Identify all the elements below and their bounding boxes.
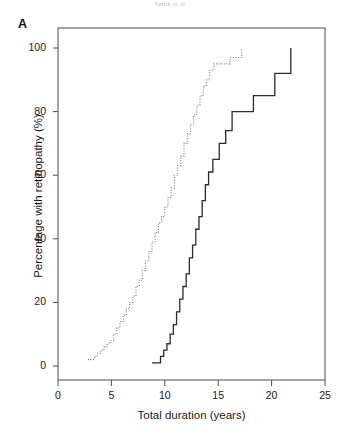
y-tick-label: 40 (20, 232, 46, 244)
y-tick-label: 100 (20, 41, 46, 53)
y-tick-label: 0 (20, 359, 46, 371)
x-tick-label: 5 (98, 389, 124, 401)
x-tick-label: 25 (312, 389, 338, 401)
x-tick-label: 15 (205, 389, 231, 401)
axis-frame (58, 28, 325, 380)
dotted-cumulative-curve (88, 48, 242, 360)
x-axis-label: Total duration (years) (58, 409, 325, 421)
x-tick-label: 20 (259, 389, 285, 401)
retinopathy-duration-chart: Percentage with retinopathy (%) Total du… (0, 0, 342, 436)
solid-cumulative-curve (152, 48, 291, 363)
x-tick-label: 10 (152, 389, 178, 401)
tick-marks (53, 48, 325, 386)
series-layer (88, 48, 291, 363)
y-tick-label: 80 (20, 105, 46, 117)
y-tick-label: 60 (20, 168, 46, 180)
x-tick-label: 0 (45, 389, 71, 401)
chart-canvas (0, 0, 342, 436)
y-tick-label: 20 (20, 295, 46, 307)
